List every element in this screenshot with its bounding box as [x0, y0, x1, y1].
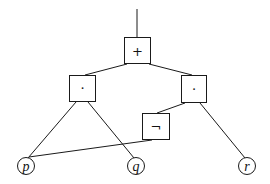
node-and-right: · [182, 76, 207, 103]
edge-and-left-q [88, 102, 134, 158]
r-label: r [244, 159, 250, 174]
leaf-r: r [239, 158, 256, 175]
edge-and-right-not [157, 103, 185, 113]
expression-tree-diagram: + · · ¬ p q r [0, 0, 270, 184]
not-label: ¬ [151, 120, 162, 135]
q-label: q [133, 159, 140, 174]
node-plus: + [125, 38, 151, 64]
edge-plus-and-left [85, 64, 127, 75]
and-right-label: · [192, 82, 196, 97]
edge-not-p [29, 140, 152, 157]
plus-label: + [132, 44, 143, 59]
leaf-p: p [18, 158, 35, 175]
node-and-left: · [70, 76, 96, 102]
leaf-q: q [128, 158, 145, 175]
and-left-label: · [80, 81, 84, 96]
edges [28, 9, 245, 158]
node-not: ¬ [143, 114, 170, 140]
edge-plus-and-right [149, 64, 192, 75]
edge-and-left-p [28, 102, 76, 158]
edge-and-right-r [200, 103, 245, 158]
p-label: p [22, 159, 30, 174]
